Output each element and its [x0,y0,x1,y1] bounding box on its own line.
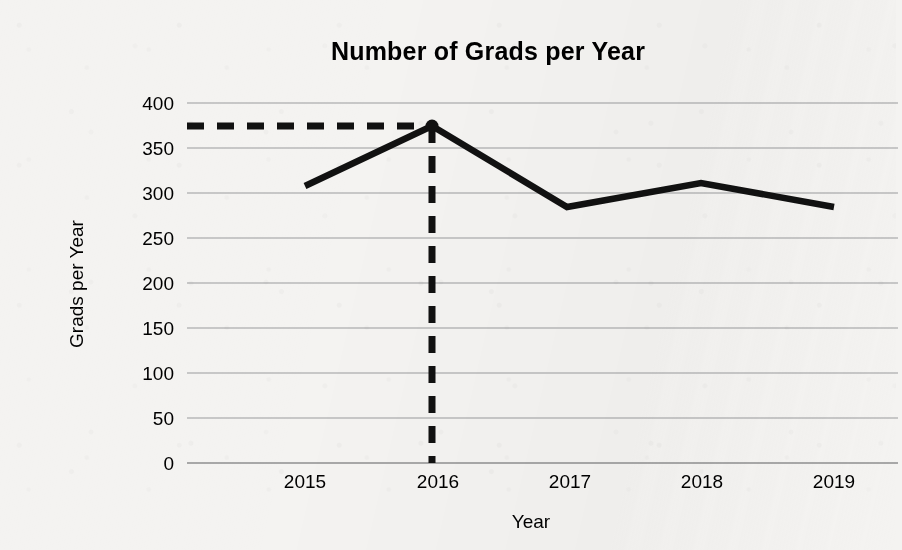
y-axis-title: Grads per Year [66,219,87,347]
x-tick-labels: 2015 2016 2017 2018 2019 [284,471,855,492]
chart-title: Number of Grads per Year [331,37,645,65]
y-tick-label-200: 200 [142,273,174,294]
x-tick-label-2015: 2015 [284,471,326,492]
y-tick-label-0: 0 [163,453,174,474]
x-tick-label-2017: 2017 [549,471,591,492]
y-tick-label-350: 350 [142,138,174,159]
line-chart-figure: Number of Grads per Year 400 350 300 250… [40,16,856,534]
y-tick-label-400: 400 [142,93,174,114]
chart-canvas: Number of Grads per Year 400 350 300 250… [40,16,902,550]
y-tick-label-250: 250 [142,228,174,249]
x-tick-label-2019: 2019 [813,471,855,492]
y-tick-label-50: 50 [153,408,174,429]
data-line-grads-per-year [305,126,834,207]
y-gridlines [187,103,898,418]
y-tick-label-300: 300 [142,183,174,204]
x-tick-label-2016: 2016 [417,471,459,492]
y-tick-label-100: 100 [142,363,174,384]
highlighted-point-marker [426,120,439,133]
x-axis-title: Year [512,511,551,532]
x-tick-label-2018: 2018 [681,471,723,492]
y-tick-label-150: 150 [142,318,174,339]
y-tick-labels: 400 350 300 250 200 150 100 50 0 [142,93,174,474]
